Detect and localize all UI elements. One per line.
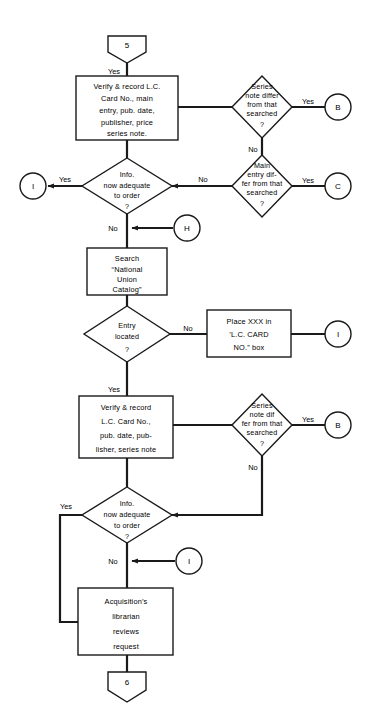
series-bottom-line-5: ?	[260, 439, 264, 448]
entry-located-line-3: ?	[125, 345, 129, 354]
main-entry-line-1: Main	[254, 161, 270, 170]
search-line-3: Union	[117, 275, 137, 284]
process-place-xxx[interactable]: Place XXX in ’L.C. CARD NO.” box	[207, 310, 291, 357]
connector-end-6[interactable]: 6	[108, 672, 146, 702]
search-line-1: Search	[115, 254, 139, 263]
edge-label-series-bottom-yes: Yes	[302, 415, 314, 424]
decision-entry-located[interactable]: Entry located ?	[84, 306, 170, 362]
process-verify-record-top[interactable]: Verify & record L.C. Card No., main entr…	[76, 76, 178, 140]
verify-top-line-2: Card No., main	[101, 94, 153, 103]
connector-circle-h[interactable]: H	[174, 215, 200, 241]
flowchart-canvas: 5 Yes Verify & record L.C. Card No., mai…	[0, 0, 369, 717]
info-top-line-2: now adequate	[104, 181, 151, 190]
circle-b-top-label: B	[335, 103, 340, 112]
info-top-line-4: ?	[125, 202, 129, 211]
decision-info-adequate-bottom[interactable]: Info. now adequate to order ?	[82, 487, 172, 543]
edge-label-start-yes: Yes	[108, 67, 120, 76]
verify-top-line-1: Verify & record L.C.	[93, 82, 160, 91]
info-bottom-line-1: Info.	[120, 499, 135, 508]
main-entry-line-4: searched	[247, 188, 278, 197]
search-line-2: “National	[112, 265, 143, 274]
info-top-line-1: Info.	[120, 170, 135, 179]
acquisitions-line-1: Acquisition’s	[105, 597, 148, 606]
search-line-4: Catalog”	[112, 285, 142, 294]
info-bottom-line-4: ?	[125, 532, 129, 541]
circle-i-left-label: I	[32, 182, 34, 191]
info-top-line-3: to order	[114, 191, 140, 200]
circle-c-label: C	[335, 182, 341, 191]
main-entry-line-3: fer from that	[242, 179, 283, 188]
connector-circle-i-bottom[interactable]: I	[176, 548, 202, 574]
process-verify-record-bottom[interactable]: Verify & record L.C. Card No., pub. date…	[79, 396, 173, 458]
info-bottom-line-2: now adequate	[104, 510, 151, 519]
series-bottom-line-4: searched	[247, 428, 278, 437]
circle-i-right-label: I	[337, 330, 339, 339]
connector-circle-i-right[interactable]: I	[325, 321, 351, 347]
series-bottom-line-1: Series	[251, 401, 273, 410]
connector-circle-c[interactable]: C	[325, 173, 351, 199]
circle-i-bottom-label: I	[188, 557, 190, 566]
verify-bottom-line-4: lisher, series note	[96, 445, 156, 454]
series-top-line-3: from that	[247, 100, 277, 109]
edge-label-main-entry-yes: Yes	[302, 176, 314, 185]
place-xxx-line-2: ’L.C. CARD	[229, 330, 269, 339]
verify-top-line-4: publisher, price	[101, 118, 153, 127]
circle-h-label: H	[184, 224, 190, 233]
series-bottom-line-3: fer from that	[242, 419, 283, 428]
info-bottom-line-3: to order	[114, 521, 140, 530]
verify-bottom-line-3: pub. date, pub-	[100, 431, 152, 440]
edge-label-series-top-no: No	[248, 145, 257, 154]
verify-bottom-line-1: Verify & record	[101, 403, 152, 412]
edge-label-info-top-no: No	[108, 224, 117, 233]
connector-circle-i-left[interactable]: I	[20, 173, 46, 199]
place-xxx-line-3: NO.” box	[234, 343, 265, 352]
edge-label-entry-located-no: No	[183, 324, 192, 333]
edge-label-info-bottom-no: No	[108, 557, 117, 566]
acquisitions-line-3: reviews	[113, 627, 139, 636]
edge-label-series-bottom-no: No	[248, 463, 257, 472]
series-bottom-line-2: note dif	[250, 410, 275, 419]
verify-top-line-5: series note.	[107, 129, 147, 138]
place-xxx-line-1: Place XXX in	[227, 317, 272, 326]
decision-main-entry-differ[interactable]: Main entry dif- fer from that searched ?	[232, 155, 292, 217]
connector-start-5[interactable]: 5	[108, 36, 146, 63]
decision-info-adequate-top[interactable]: Info. now adequate to order ?	[82, 158, 172, 214]
main-entry-line-2: entry dif-	[247, 170, 277, 179]
edge-label-entry-located-yes: Yes	[108, 385, 120, 394]
decision-series-note-differ-bottom[interactable]: Series note dif fer from that searched ?	[232, 394, 292, 456]
main-entry-line-5: ?	[260, 199, 264, 208]
edge-label-series-top-yes: Yes	[302, 97, 314, 106]
connector-start-5-label: 5	[125, 41, 130, 50]
connector-circle-b-bottom[interactable]: B	[325, 412, 351, 438]
series-top-line-2: note differ	[245, 91, 279, 100]
series-top-line-1: Series	[251, 82, 273, 91]
edge-label-main-entry-no: No	[198, 175, 207, 184]
process-search-nuc[interactable]: Search “National Union Catalog”	[87, 248, 167, 295]
verify-bottom-line-2: L.C. Card No.,	[101, 417, 150, 426]
entry-located-line-1: Entry	[118, 321, 136, 330]
circle-b-bottom-label: B	[335, 421, 340, 430]
edge-label-info-top-yes: Yes	[59, 175, 71, 184]
acquisitions-line-4: request	[113, 642, 139, 651]
acquisitions-line-2: librarian	[112, 612, 140, 621]
series-top-line-4: searched	[247, 109, 278, 118]
process-acquisitions-librarian[interactable]: Acquisition’s librarian reviews request	[78, 588, 173, 655]
connector-circle-b-top[interactable]: B	[325, 94, 351, 120]
entry-located-line-2: located	[115, 332, 139, 341]
connector-end-6-label: 6	[125, 678, 130, 687]
series-top-line-5: ?	[260, 120, 264, 129]
decision-series-note-differ-top[interactable]: Series note differ from that searched ?	[232, 76, 292, 138]
flowchart-svg: 5 Yes Verify & record L.C. Card No., mai…	[0, 0, 369, 717]
edge-label-info-bottom-yes: Yes	[60, 502, 72, 511]
verify-top-line-3: entry, pub. date,	[99, 106, 154, 115]
